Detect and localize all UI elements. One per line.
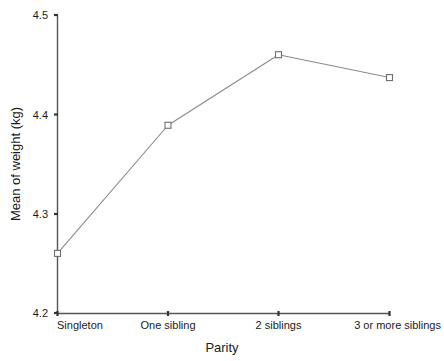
chart-background [0, 0, 444, 361]
y-tick-label-2: 4.3 [33, 208, 48, 220]
y-tick-label-3: 4.2 [33, 307, 48, 319]
y-tick-label-1: 4.4 [33, 109, 48, 121]
data-point-marker [387, 75, 393, 81]
x-tick-label-1: One sibling [140, 319, 195, 331]
x-tick-label-0: Singleton [57, 319, 103, 331]
x-axis-title: Parity [205, 340, 239, 355]
x-tick-label-3: 3 or more siblings [354, 319, 441, 331]
data-point-marker [55, 250, 61, 256]
y-tick-label-0: 4.5 [33, 9, 48, 21]
x-tick-label-2: 2 siblings [256, 319, 302, 331]
data-point-marker [165, 122, 171, 128]
data-point-marker [276, 52, 282, 58]
y-axis-title: Mean of weight (kg) [8, 107, 23, 221]
chart-page: 4.5 4.4 4.3 4.2 Singleton One sibling 2 … [0, 0, 444, 361]
line-chart: 4.5 4.4 4.3 4.2 Singleton One sibling 2 … [0, 0, 444, 361]
